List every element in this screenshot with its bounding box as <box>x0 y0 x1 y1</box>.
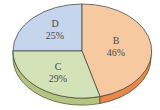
slice-d[interactable] <box>13 4 82 51</box>
slice-b-pct: 46% <box>107 47 125 58</box>
slice-c-name: C <box>55 61 62 72</box>
pie-chart: D 25% B 46% C 29% <box>0 0 160 110</box>
slice-d-name: D <box>51 18 58 29</box>
slice-b-name: B <box>113 35 120 46</box>
slice-d-pct: 25% <box>46 30 64 41</box>
pie-top <box>13 4 152 98</box>
slice-c-pct: 29% <box>49 73 67 84</box>
